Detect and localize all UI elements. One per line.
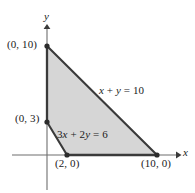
- y-axis-arrowhead: [44, 24, 51, 29]
- equation-op-plus: +: [104, 84, 116, 96]
- vertex-dot-0-3: [44, 119, 49, 124]
- linear-programming-figure: (0, 10) (0, 3) (2, 0) (10, 0) x + y = 10…: [0, 0, 195, 193]
- vertex-dot-0-10: [44, 43, 49, 48]
- vertex-label-0-3: (0, 3): [15, 113, 39, 124]
- equation-label-3x-plus-2y: 3x + 2y = 6: [57, 129, 108, 140]
- vertex-label-2-0: (2, 0): [55, 158, 79, 169]
- vertex-label-10-0: (10, 0): [141, 158, 171, 169]
- x-axis-label: x: [183, 147, 188, 158]
- equation-rhs2: = 6: [90, 128, 108, 140]
- vertex-label-0-10: (0, 10): [7, 39, 37, 50]
- y-axis-label: y: [44, 11, 49, 22]
- equation-op-plus2: + 2: [68, 128, 86, 140]
- equation-label-x-plus-y: x + y = 10: [99, 85, 144, 96]
- x-axis-arrowhead: [176, 152, 182, 159]
- equation-rhs: = 10: [121, 84, 144, 96]
